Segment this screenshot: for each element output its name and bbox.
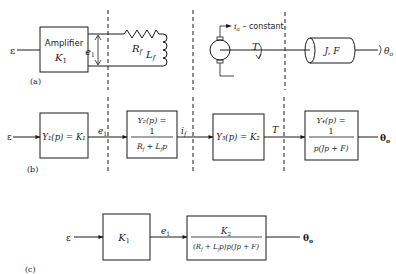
field-inductor-icon	[163, 34, 167, 66]
block-k1-label: K1	[117, 232, 130, 245]
voltage-e1-label: e1	[85, 46, 95, 59]
block-y4-numerator: 1	[328, 127, 333, 136]
block-combined-plant	[187, 216, 266, 260]
block-y1-label: Y₁(p) = K₁	[42, 132, 85, 142]
panel-a-physical-system: ε Amplifier K1 e1 Rf Lf ia – constant T	[10, 22, 393, 86]
block-y4-top: Y₄(p) =	[316, 116, 345, 125]
panel-c-reduced-diagram: ε K1 e1 K2 (Rf + Lfp)p(Jp + F) θo (c)	[25, 214, 313, 274]
panel-c-output-label: θo	[303, 233, 313, 244]
panel-b-input-label: ε	[7, 132, 12, 142]
block-y3-label: Y₃(p) = K₂	[216, 132, 260, 142]
panel-a-input-label: ε	[10, 45, 15, 56]
field-resistor-icon	[124, 30, 163, 38]
panel-b-output-label: θo	[380, 133, 390, 144]
block-y2-numerator: 1	[149, 127, 154, 136]
signal-torque-label: T	[272, 124, 279, 135]
block-y2-top: Y₂(p) =	[137, 116, 166, 125]
signal-e1-label: e1	[98, 126, 107, 137]
load-label: J, F	[322, 46, 340, 56]
block-y2-denominator: Rf + Lfp	[136, 142, 167, 153]
panel-c-label: (c)	[25, 265, 36, 274]
panel-c-input-label: ε	[66, 233, 71, 243]
panel-c-signal-e1-label: e1	[161, 226, 170, 237]
signal-if-label: if	[181, 126, 188, 138]
panel-b-label: (b)	[27, 165, 38, 174]
amplifier-gain: K1	[54, 52, 67, 65]
armature-lead-top	[220, 26, 230, 37]
block-combined-numerator: K2	[220, 226, 231, 237]
armature-current-arrow-icon	[226, 24, 232, 28]
block-diagram-canvas: ε Amplifier K1 e1 Rf Lf ia – constant T	[0, 0, 396, 274]
inductor-label: Lf	[145, 49, 157, 62]
panel-b-block-diagram: ε Y₁(p) = K₁ e1 Y₂(p) = 1 Rf + Lfp if Y₃…	[7, 111, 390, 174]
block-combined-denominator: (Rf + Lfp)p(Jp + F)	[193, 243, 259, 252]
panel-a-label: (a)	[30, 77, 41, 86]
resistor-label: Rf	[131, 43, 144, 56]
panel-a-output-label: θo	[384, 46, 393, 57]
amplifier-block	[40, 27, 88, 72]
amplifier-title: Amplifier	[45, 38, 84, 48]
output-rotation-icon	[379, 45, 381, 55]
armature-current-label: ia – constant	[234, 22, 284, 32]
block-y4-denominator: p(Jp + F)	[314, 144, 349, 153]
armature-lead-bottom	[220, 63, 234, 76]
